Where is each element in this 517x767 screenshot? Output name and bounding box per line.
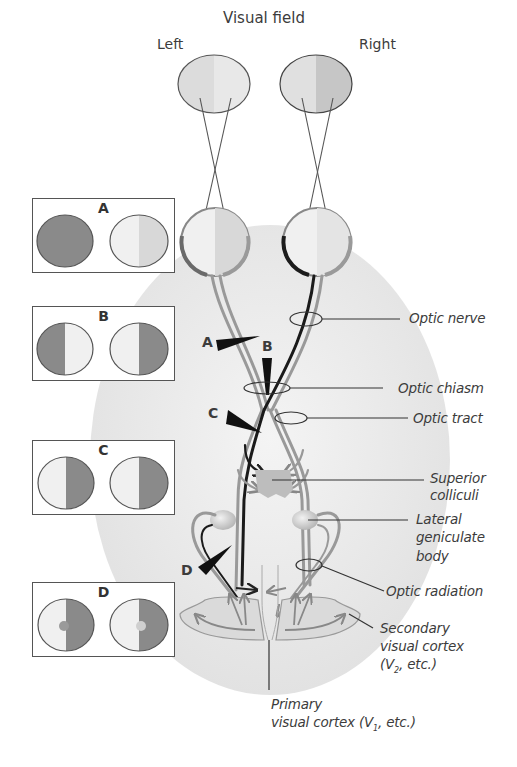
label-primary-2: visual cortex (V1, etc.) — [271, 714, 416, 737]
primary-2-post: , etc.) — [378, 714, 416, 730]
secondary-3-pre: (V — [380, 656, 394, 672]
visual-field-title: Visual field — [223, 10, 305, 27]
right-label: Right — [359, 36, 396, 53]
label-primary-1: Primary — [271, 696, 322, 713]
label-secondary-2: visual cortex — [380, 638, 464, 655]
label-superior-colliculi-1: Superior — [430, 470, 486, 487]
lesion-box-b: B — [32, 306, 175, 381]
secondary-3-post: , etc.) — [399, 656, 437, 672]
left-label: Left — [157, 36, 183, 53]
label-lgb-2: geniculate — [416, 529, 485, 546]
visual-field-right — [280, 50, 356, 120]
label-lgb-1: Lateral — [416, 511, 462, 528]
visual-field-left — [178, 50, 254, 120]
label-secondary-1: Secondary — [380, 620, 450, 637]
lesion-box-a: A — [32, 198, 175, 273]
field-a-left — [37, 215, 93, 267]
lesion-marker-b: B — [262, 338, 273, 355]
primary-2-pre: visual cortex (V — [271, 714, 373, 730]
right-eyeball — [283, 208, 351, 276]
lesion-marker-d: D — [181, 562, 193, 579]
label-secondary-3: (V2, etc.) — [380, 656, 437, 679]
label-superior-colliculi-2: colliculi — [430, 487, 479, 504]
lesion-box-d: D — [32, 582, 175, 657]
lesion-box-c: C — [32, 440, 175, 515]
lesion-marker-c: C — [208, 405, 218, 422]
label-optic-nerve: Optic nerve — [409, 310, 485, 327]
lesion-marker-a: A — [202, 334, 213, 351]
label-optic-tract: Optic tract — [413, 410, 483, 427]
left-eyeball — [181, 208, 249, 276]
label-lgb-3: body — [416, 548, 449, 565]
label-optic-radiation: Optic radiation — [386, 583, 483, 600]
label-optic-chiasm: Optic chiasm — [398, 380, 484, 397]
